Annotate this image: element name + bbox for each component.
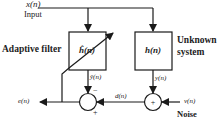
adaptation-feedback-line [62, 68, 69, 102]
unknown-system-label-2: system [177, 48, 204, 58]
noise-signal-label: v(n) [184, 98, 195, 105]
input-label: Input [24, 10, 42, 19]
input-signal-label: x(n) [26, 0, 41, 9]
noise-label: Noise [177, 110, 197, 119]
noise-summer-plus: + [151, 98, 156, 107]
adaptive-filter-block-label: ĥ(n) [79, 46, 95, 55]
error-summer-minus: − [93, 87, 98, 95]
y-label: y(n) [155, 75, 166, 82]
desired-label: d(n) [115, 93, 127, 100]
error-summer-plus: + [93, 109, 98, 117]
error-label: e(n) [18, 98, 29, 105]
yhat-label: ŷ(n) [90, 74, 101, 81]
adaptive-filter-label: Adaptive filter [2, 45, 61, 55]
unknown-system-label-1: Unknown [177, 36, 217, 46]
unknown-system-block-label: h(n) [145, 46, 161, 55]
